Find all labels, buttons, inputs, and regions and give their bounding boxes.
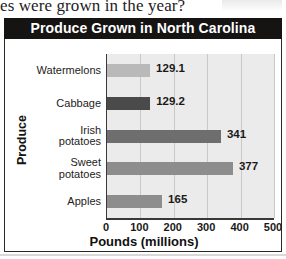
- category-label: Irishpotatoes: [11, 125, 101, 148]
- bar-value-label: 341: [227, 128, 246, 140]
- plot-area: 129.1129.2341377165: [106, 54, 274, 218]
- x-tick-label: 0: [91, 221, 121, 233]
- bar: [107, 64, 150, 77]
- bar-value-label: 129.2: [156, 95, 185, 107]
- bar-value-label: 377: [239, 160, 258, 172]
- bar-row: 129.1: [107, 54, 274, 87]
- chart-title-bar: Produce Grown in North Carolina: [4, 18, 282, 39]
- bar-row: 377: [107, 152, 274, 185]
- x-tick-label: 100: [124, 221, 154, 233]
- category-label: Cabbage: [11, 98, 101, 110]
- chart-title: Produce Grown in North Carolina: [4, 18, 282, 39]
- bar: [107, 195, 162, 208]
- bar-row: 129.2: [107, 87, 274, 120]
- bar: [107, 162, 233, 175]
- bar-row: 165: [107, 185, 274, 218]
- x-tick-label: 500: [258, 221, 286, 233]
- category-label: Watermelons: [11, 65, 101, 77]
- chart-plot-frame: Produce 129.1129.2341377165 WatermelonsC…: [4, 39, 282, 252]
- page-bottom-rule: [0, 254, 286, 256]
- category-label-line: Watermelons: [11, 65, 101, 77]
- gridline: [274, 54, 275, 218]
- x-axis-title: Pounds (millions): [5, 234, 283, 249]
- category-label-line: potatoes: [11, 136, 101, 148]
- category-label-line: Cabbage: [11, 98, 101, 110]
- category-label: Sweetpotatoes: [11, 157, 101, 180]
- category-label-line: potatoes: [11, 169, 101, 181]
- bar: [107, 130, 221, 143]
- bar-value-label: 165: [168, 193, 187, 205]
- x-axis-line: [106, 218, 275, 220]
- category-label-line: Apples: [11, 196, 101, 208]
- bar: [107, 97, 150, 110]
- category-label: Apples: [11, 196, 101, 208]
- x-tick-label: 300: [191, 221, 221, 233]
- bar-chart-figure: Produce Grown in North Carolina Produce …: [4, 18, 282, 252]
- x-tick-label: 200: [158, 221, 188, 233]
- x-tick-label: 400: [225, 221, 255, 233]
- bar-value-label: 129.1: [156, 62, 185, 74]
- bar-row: 341: [107, 120, 274, 153]
- page-scan-smudge: [222, 0, 282, 11]
